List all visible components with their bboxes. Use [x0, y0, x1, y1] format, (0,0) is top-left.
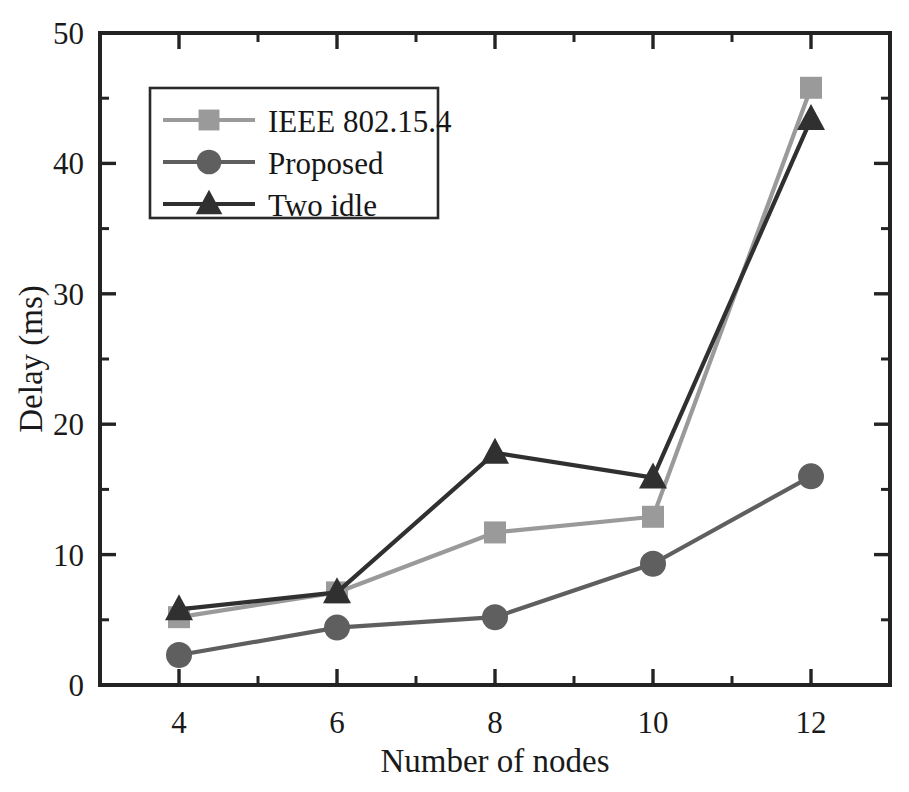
marker-square — [800, 77, 822, 99]
x-tick-label: 8 — [487, 705, 503, 740]
marker-circle — [324, 615, 350, 641]
marker-square — [484, 521, 506, 543]
marker-circle — [197, 150, 222, 175]
chart-canvas: 4681012 01020304050 Number of nodes Dela… — [0, 0, 909, 792]
legend-label: IEEE 802.15.4 — [268, 104, 452, 139]
marker-circle — [482, 604, 508, 630]
y-tick-label: 50 — [53, 16, 84, 51]
y-axis-title: Delay (ms) — [13, 285, 50, 433]
x-tick-label: 12 — [796, 705, 827, 740]
marker-circle — [798, 463, 824, 489]
y-tick-label: 40 — [53, 146, 84, 181]
marker-circle — [166, 642, 192, 668]
y-tick-label: 10 — [53, 538, 84, 573]
x-axis-title: Number of nodes — [380, 743, 609, 779]
x-tick-label: 4 — [171, 705, 187, 740]
marker-square — [642, 506, 664, 528]
y-tick-label: 20 — [53, 407, 84, 442]
marker-square — [199, 110, 220, 131]
y-tick-label: 30 — [53, 277, 84, 312]
delay-vs-nodes-chart: 4681012 01020304050 Number of nodes Dela… — [0, 0, 909, 792]
chart-legend: IEEE 802.15.4ProposedTwo idle — [150, 88, 452, 223]
x-tick-label: 6 — [329, 705, 345, 740]
chart-background — [0, 0, 909, 792]
legend-label: Two idle — [268, 188, 377, 223]
x-tick-label: 10 — [638, 705, 669, 740]
marker-circle — [640, 551, 666, 577]
y-tick-label: 0 — [69, 668, 85, 703]
legend-label: Proposed — [268, 146, 384, 181]
